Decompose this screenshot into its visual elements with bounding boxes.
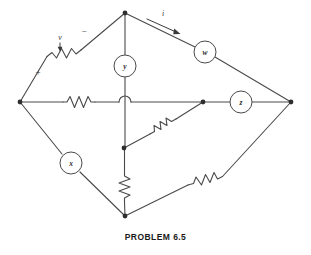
current-arrow-head: [173, 29, 180, 35]
element-y[interactable]: y: [114, 55, 136, 77]
branch-bottom-right: [125, 102, 291, 216]
wire-mid-lower-to-resistor-diagonal: [124, 134, 150, 148]
branch-top-left: [20, 13, 125, 102]
node-dot-mid-right: [201, 100, 206, 105]
element-x-label: x: [68, 159, 73, 168]
wire-left-to-x: [20, 102, 62, 154]
node-dot-bottom: [123, 214, 128, 219]
wire-top-to-resistor-upper-left: [81, 13, 125, 50]
wire-bottom-to-resistor-lower-right: [125, 185, 188, 216]
node-dot-mid-lower: [122, 146, 127, 151]
wire-resistor-upper-left-to-left: [20, 57, 47, 103]
wire-resistor-diagonal-to-mid-right: [176, 102, 203, 119]
node-dot-top: [123, 11, 128, 16]
resistor-lower-right: [188, 173, 223, 186]
wire-top-to-w: [125, 13, 195, 47]
voltage-plus-label: +: [35, 67, 40, 77]
wire-w-to-right: [215, 57, 291, 102]
wire-x-to-bottom: [80, 172, 125, 216]
element-z[interactable]: z: [230, 91, 252, 113]
circuit-diagram: w y z x v + − i: [0, 0, 311, 255]
resistor-horizontal-left: [63, 97, 95, 108]
wire-resistor-lower-right-to-right: [223, 102, 292, 177]
element-y-label: y: [122, 62, 127, 71]
element-x[interactable]: x: [60, 152, 82, 174]
element-w[interactable]: w: [194, 41, 216, 63]
figure-caption: PROBLEM 6.5: [0, 232, 311, 242]
resistor-upper-left: [47, 49, 81, 59]
resistor-diagonal-center: [150, 118, 176, 134]
voltage-minus-label: −: [81, 26, 86, 36]
voltage-label: v: [58, 33, 62, 42]
element-z-label: z: [239, 98, 243, 107]
current-annotation: i: [147, 9, 181, 35]
node-dot-left: [18, 100, 23, 105]
current-label: i: [162, 9, 164, 18]
node-dot-right: [289, 100, 294, 105]
resistor-vertical-bottom: [119, 172, 130, 202]
figure-root: w y z x v + − i PROBLEM: [0, 0, 311, 255]
